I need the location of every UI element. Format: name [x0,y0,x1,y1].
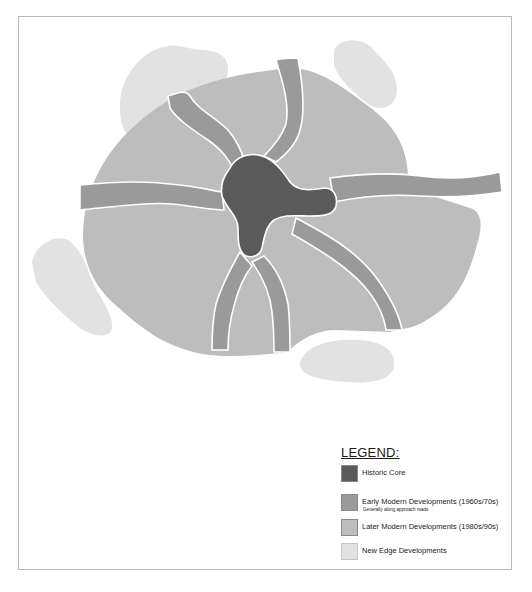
legend-label: Historic Core [362,468,405,477]
legend-swatch-new-edge [341,543,358,560]
legend-label: New Edge Developments [362,546,447,555]
legend-title: LEGEND: [341,445,511,461]
legend-item-historic-core: Historic Core [341,465,405,482]
legend-item-new-edge: New Edge Developments [341,543,447,560]
legend-swatch-later-modern [341,519,358,536]
legend-label: Later Modern Developments (1980s/90s) [362,522,498,531]
legend-swatch-early-modern [341,494,358,511]
legend-swatch-historic-core [341,465,358,482]
legend-item-early-modern: Early Modern Developments (1960s/70s) Ge… [341,494,498,513]
legend-item-later-modern: Later Modern Developments (1980s/90s) [341,519,498,536]
legend-label: Early Modern Developments (1960s/70s) [362,497,498,506]
legend-sublabel: Generally along approach roads [363,506,498,513]
legend: LEGEND: Historic Core Early Modern Devel… [341,445,511,467]
